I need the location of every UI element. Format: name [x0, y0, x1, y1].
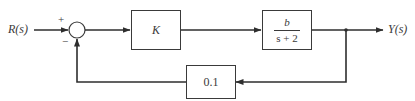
output-label: Y(s) [388, 23, 407, 35]
summing-junction [69, 22, 85, 38]
feedback-block: 0.1 [186, 65, 236, 99]
feedback-gain: 0.1 [204, 76, 219, 88]
controller-block: K [131, 10, 181, 50]
input-label: R(s) [8, 23, 28, 35]
plant-denominator: s + 2 [276, 31, 297, 44]
plant-block: b s + 2 [262, 10, 312, 50]
controller-gain: K [152, 24, 160, 36]
plant-numerator: b [284, 17, 290, 30]
plus-sign: + [58, 14, 64, 25]
minus-sign: − [62, 36, 68, 47]
plant-transfer-function: b s + 2 [274, 17, 300, 44]
